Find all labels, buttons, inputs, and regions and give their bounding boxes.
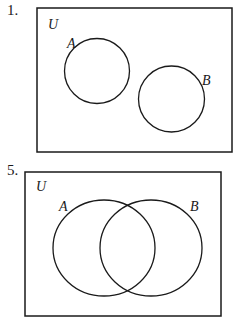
venn-diagram-1: U A B bbox=[37, 8, 232, 152]
set-b-circle bbox=[139, 66, 205, 132]
set-b-circle bbox=[100, 200, 202, 296]
universe-box bbox=[25, 172, 221, 316]
venn-diagram-5: U A B bbox=[25, 172, 221, 316]
universe-label: U bbox=[36, 179, 47, 194]
set-b-label: B bbox=[190, 199, 199, 214]
set-a-label: A bbox=[66, 36, 76, 51]
venn-diagrams: U A B U A B bbox=[0, 0, 240, 321]
set-a-circle bbox=[53, 200, 155, 296]
set-b-label: B bbox=[202, 73, 211, 88]
set-a-label: A bbox=[58, 199, 68, 214]
universe-label: U bbox=[48, 17, 59, 32]
